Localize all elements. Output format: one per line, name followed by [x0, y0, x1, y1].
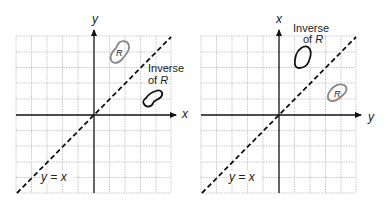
left-identity-line-label: y = x [40, 170, 68, 184]
right-region-R-label: R [334, 89, 341, 99]
left-inverse-region [143, 90, 162, 106]
right-panel: R Inverse of R y x y = x [201, 12, 375, 193]
right-inverse-label-line2: of R [303, 33, 323, 45]
left-region-R-label: R [116, 48, 123, 58]
right-horizontal-axis-label: y [367, 110, 375, 124]
right-identity-line-label: y = x [228, 170, 256, 184]
left-inverse-label-line1: Inverse [148, 62, 184, 74]
left-inverse-label-line2: of R [148, 74, 168, 86]
left-horizontal-axis-label: x [181, 107, 189, 121]
diagram-canvas: R Inverse of R x y y = x R Inverse of R [0, 0, 389, 204]
left-panel: R Inverse of R x y y = x [16, 12, 189, 193]
left-vertical-axis-label: y [91, 12, 99, 26]
right-inverse-region [295, 46, 311, 68]
right-vertical-axis-label: x [275, 12, 283, 26]
